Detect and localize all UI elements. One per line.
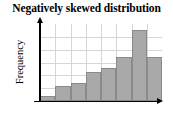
- y-axis-arrow-icon: [37, 17, 43, 23]
- y-axis-label-container: Frequency: [12, 24, 26, 100]
- bar: [55, 86, 70, 101]
- bar: [132, 30, 147, 101]
- bar: [116, 57, 131, 101]
- plot-area: [40, 24, 162, 101]
- chart-title: Negatively skewed distribution: [0, 1, 173, 15]
- x-axis-arrow-icon: [157, 98, 163, 104]
- bar: [86, 72, 101, 101]
- chart-figure: Negatively skewed distribution Frequency: [0, 0, 173, 115]
- bar: [101, 68, 116, 101]
- bar: [147, 57, 162, 101]
- y-axis-line: [39, 22, 41, 102]
- y-axis-label: Frequency: [14, 40, 25, 84]
- bar-series: [40, 24, 162, 101]
- x-axis-line: [34, 101, 158, 103]
- bar: [71, 83, 86, 101]
